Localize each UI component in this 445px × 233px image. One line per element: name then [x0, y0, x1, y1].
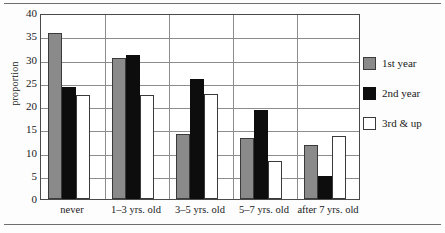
bar — [254, 110, 268, 199]
bar — [204, 94, 218, 199]
bar — [268, 161, 282, 199]
legend-item[interactable]: 2nd year — [363, 86, 420, 100]
bar — [48, 33, 62, 199]
bar — [176, 134, 190, 199]
bar — [240, 138, 254, 199]
legend-item[interactable]: 3rd & up — [363, 116, 422, 130]
white-swatch — [363, 117, 376, 130]
y-tick-label: 30 — [3, 55, 37, 66]
legend-label: 2nd year — [382, 87, 420, 99]
plot-area — [40, 14, 360, 200]
legend-label: 3rd & up — [382, 117, 422, 129]
y-tick-label: 35 — [3, 31, 37, 42]
chart-legend: 1st year2nd year3rd & up — [363, 56, 443, 142]
bar-group — [105, 15, 169, 199]
page-rule-top — [4, 3, 441, 4]
gray-swatch — [363, 57, 376, 70]
bar — [126, 55, 140, 199]
bar-group — [233, 15, 297, 199]
black-swatch — [363, 87, 376, 100]
bar — [112, 58, 126, 199]
bar — [332, 136, 346, 199]
legend-label: 1st year — [382, 57, 417, 69]
x-axis-tick-labels: never1–3 yrs. old3–5 yrs. old5–7 yrs. ol… — [40, 203, 360, 219]
bar-group — [169, 15, 233, 199]
page-rule-bottom — [4, 224, 441, 225]
legend-item[interactable]: 1st year — [363, 56, 417, 70]
chart-figure: proportion 0510152025303540 never1–3 yrs… — [0, 0, 445, 233]
bar — [140, 95, 154, 199]
y-tick-label: 40 — [3, 8, 37, 19]
y-tick-label: 20 — [3, 101, 37, 112]
x-tick-label: after 7 yrs. old — [264, 203, 392, 216]
y-tick-label: 15 — [3, 124, 37, 135]
y-tick-label: 10 — [3, 148, 37, 159]
y-tick-label: 5 — [3, 171, 37, 182]
y-axis-tick-labels: 0510152025303540 — [0, 14, 37, 200]
bar — [304, 145, 318, 199]
bar — [62, 87, 76, 199]
bar — [76, 95, 90, 199]
bar-group — [297, 15, 361, 199]
bar — [318, 176, 332, 199]
y-tick-label: 25 — [3, 78, 37, 89]
bar-group — [41, 15, 105, 199]
bar — [190, 79, 204, 199]
